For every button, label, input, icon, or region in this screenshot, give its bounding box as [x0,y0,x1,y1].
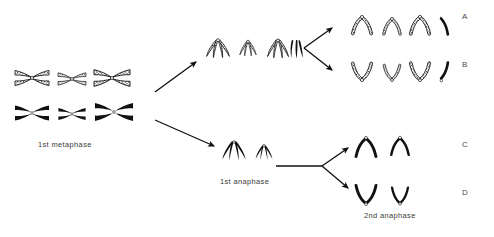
chromosome-vee-stippled [383,64,401,81]
chromosome-x-solid [58,108,85,120]
arrow-to-row-b [304,48,332,70]
metaphase-lower-row-solid [15,103,133,121]
caption-metaphase-1: 1st metaphase [38,140,92,149]
arrow-to-anaphase1-lower [155,120,214,146]
chromosome-arch-stippled [383,17,402,35]
stage-anaphase-2 [351,15,449,205]
row-d-chromosomes [355,184,410,206]
stage-metaphase-1 [15,70,133,121]
row-c-chromosomes [355,136,410,158]
chromosome-arch-solid [355,136,378,158]
anaphase1-lower-row-solid [222,141,272,161]
chromosome-arch-solid [440,16,450,35]
chromosome-fan-solid [256,144,273,160]
arrow-to-row-c [322,148,348,166]
chromosome-vee-stippled [351,62,372,81]
row-b-chromosomes [351,61,449,82]
diagram-canvas [0,0,494,237]
row-label-b: B [462,60,467,69]
metaphase-upper-row-stippled [15,70,130,87]
stage-anaphase-1 [207,39,303,161]
chromosome-arch-stippled [351,15,372,34]
chromosome-vee-solid [391,187,409,206]
row-label-a: A [462,12,467,21]
row-label-d: D [462,188,468,197]
arrow-group-to-rows-cd [276,148,348,188]
chromosome-fan-solid [222,141,245,161]
caption-anaphase-2: 2nd anaphase [364,211,416,220]
chromosome-vee-solid [440,61,450,82]
arrow-to-row-a [304,28,332,48]
anaphase1-upper-row-stippled [207,39,303,59]
meiosis-diagram-figure: 1st metaphase 1st anaphase 2nd anaphase … [0,0,494,237]
chromosome-x-stippled [15,70,49,85]
row-a-chromosomes [351,15,449,35]
chromosome-x-stippled [58,73,86,85]
caption-anaphase-1: 1st anaphase [220,177,269,186]
arrow-to-anaphase1-upper [155,62,196,92]
chromosome-vee-solid [355,184,378,206]
arrow-to-row-d [322,166,348,188]
chromosome-x-stippled [94,70,130,87]
chromosome-arch-stippled [409,15,430,35]
chromosome-fan-stippled [240,40,256,56]
chromosome-x-solid [95,103,133,121]
arrow-group-metaphase-to-anaphase1 [155,62,214,146]
chromosome-x-solid [15,105,49,120]
chromosome-fan-stippled [268,39,289,58]
chromosome-arch-solid [390,136,410,156]
arrow-group-to-rows-ab [304,28,332,70]
chromosome-fan-stippled [207,39,230,58]
chromosome-fan-solid [291,40,303,59]
chromosome-vee-stippled [409,62,430,82]
row-label-c: C [462,140,468,149]
